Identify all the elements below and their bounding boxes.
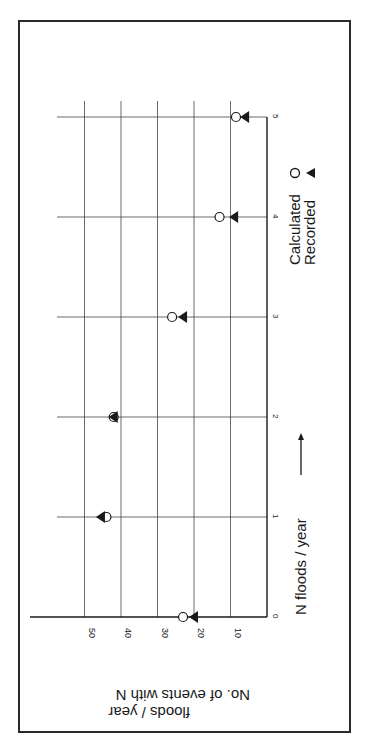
y-tick-30: 30 — [160, 628, 170, 638]
point-recorded-triangle-icon — [189, 611, 198, 623]
y-tick-10: 10 — [233, 628, 243, 638]
grid-lines — [30, 101, 267, 617]
legend-triangle-icon — [306, 168, 315, 178]
y-tick-50: 50 — [87, 628, 97, 638]
tick-labels: 1020304050012345 — [87, 114, 281, 638]
legend-circle-icon — [291, 169, 300, 178]
point-calculated-circle-icon — [215, 213, 224, 222]
x-tick-0: 0 — [271, 614, 280, 619]
y-axis-label-line2: floods / year — [108, 704, 190, 721]
point-calculated-circle-icon — [179, 613, 188, 622]
point-recorded-triangle-icon — [240, 111, 249, 123]
data-points — [96, 111, 249, 623]
legend-label-recorded: Recorded — [301, 200, 318, 265]
y-axis-label-line1: No. of events with N — [116, 687, 250, 704]
point-calculated-circle-icon — [231, 113, 240, 122]
x-tick-1: 1 — [271, 514, 280, 519]
chart: 1020304050012345 N floods / year Calcula… — [0, 0, 376, 747]
x-axis-arrow-icon — [298, 433, 304, 440]
point-recorded-triangle-icon — [96, 511, 105, 523]
x-axis-label: N floods / year — [292, 518, 309, 615]
point-calculated-circle-icon — [168, 313, 177, 322]
x-tick-5: 5 — [271, 114, 280, 119]
legend: Calculated Recorded — [286, 168, 318, 265]
x-tick-3: 3 — [271, 314, 280, 319]
x-tick-4: 4 — [271, 214, 280, 219]
y-tick-20: 20 — [196, 628, 206, 638]
point-recorded-triangle-icon — [178, 311, 187, 323]
x-tick-2: 2 — [271, 414, 280, 419]
y-tick-40: 40 — [123, 628, 133, 638]
